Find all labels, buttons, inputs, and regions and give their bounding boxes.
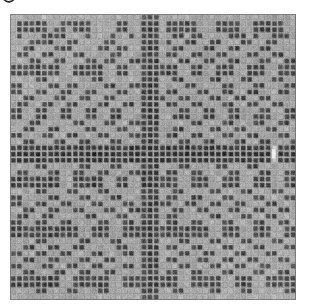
- caption-glyph-partial: [1, 0, 17, 5]
- microarray-grid-panel: [10, 14, 296, 300]
- microarray-heatmap-canvas: [10, 14, 296, 300]
- figure-root: [0, 0, 310, 305]
